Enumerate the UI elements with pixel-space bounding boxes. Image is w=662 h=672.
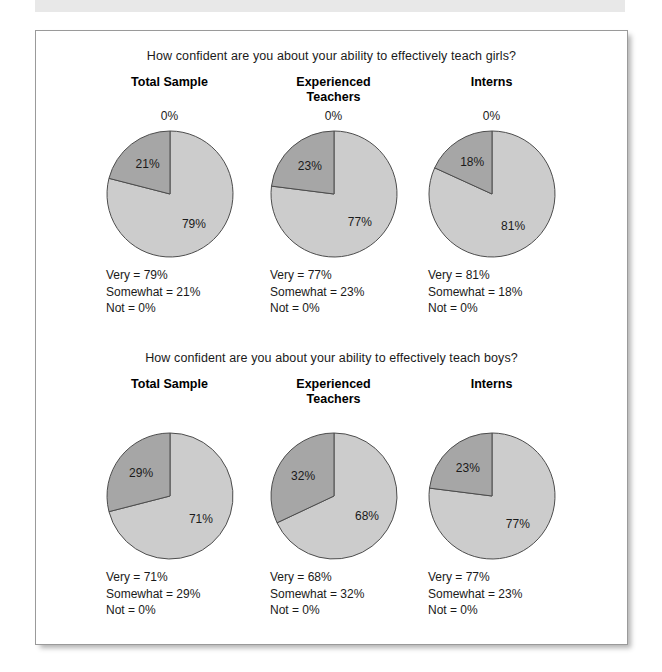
pie-slice-label-very: 77% [505,517,529,531]
column-header: Total Sample [82,377,257,409]
pie-slice-label-very: 77% [347,215,371,229]
pie-chart[interactable]: 71%29% [82,427,257,559]
pie-slice-label-somewhat: 23% [297,159,321,173]
legend-line: Somewhat = 21% [106,284,257,301]
figure-frame: How confident are you about your ability… [35,30,628,645]
chart-row: Total Sample 71%29% Very = 71%Somewhat =… [36,377,627,627]
legend-line: Very = 77% [428,569,579,586]
chart-row: Total Sample 0% 79%21% Very = 79%Somewha… [36,75,627,325]
chart-column-experienced-teachers: ExperiencedTeachers 68%32% Very = 68%Som… [246,377,421,619]
section-title: How confident are you about your ability… [36,351,627,365]
pie-svg: 81%18% [423,125,561,263]
pie-slice-label-very: 79% [181,217,205,231]
chart-column-total-sample: Total Sample 71%29% Very = 71%Somewhat =… [82,377,257,619]
pie-svg: 71%29% [101,427,239,565]
pie-svg: 77%23% [423,427,561,565]
section-title: How confident are you about your ability… [36,49,627,63]
pie-slice-label-very: 68% [354,509,378,523]
legend-line: Very = 81% [428,267,579,284]
pie-slice-label-somewhat: 32% [291,469,315,483]
pie-slice-label-somewhat: 23% [455,461,479,475]
pie-legend: Very = 77%Somewhat = 23%Not = 0% [246,267,421,317]
chart-column-experienced-teachers: ExperiencedTeachers 0% 77%23% Very = 77%… [246,75,421,317]
chart-column-interns: Interns 0% 81%18% Very = 81%Somewhat = 1… [404,75,579,317]
chart-column-interns: Interns 77%23% Very = 77%Somewhat = 23%N… [404,377,579,619]
legend-line: Not = 0% [270,300,421,317]
column-header: ExperiencedTeachers [246,377,421,409]
chart-column-total-sample: Total Sample 0% 79%21% Very = 79%Somewha… [82,75,257,317]
pie-chart[interactable]: 81%18% [404,125,579,257]
column-header: Interns [404,75,579,107]
pie-svg: 77%23% [265,125,403,263]
legend-line: Somewhat = 29% [106,586,257,603]
legend-line: Very = 71% [106,569,257,586]
legend-line: Not = 0% [270,602,421,619]
pie-svg: 68%32% [265,427,403,565]
pie-legend: Very = 71%Somewhat = 29%Not = 0% [82,569,257,619]
pie-legend: Very = 79%Somewhat = 21%Not = 0% [82,267,257,317]
zero-percent-label: 0% [82,107,257,125]
legend-line: Very = 79% [106,267,257,284]
pie-chart[interactable]: 77%23% [246,125,421,257]
legend-line: Very = 68% [270,569,421,586]
pie-slice-label-somewhat: 21% [135,157,159,171]
legend-line: Somewhat = 23% [428,586,579,603]
legend-line: Not = 0% [428,300,579,317]
section-teach-girls: How confident are you about your ability… [36,31,627,325]
zero-percent-label: 0% [404,107,579,125]
pie-svg: 79%21% [101,125,239,263]
pie-chart[interactable]: 79%21% [82,125,257,257]
pie-chart[interactable]: 68%32% [246,427,421,559]
legend-line: Not = 0% [428,602,579,619]
top-decorative-band [35,0,625,12]
zero-percent-label: 0% [246,107,421,125]
pie-legend: Very = 77%Somewhat = 23%Not = 0% [404,569,579,619]
legend-line: Not = 0% [106,602,257,619]
section-teach-boys: How confident are you about your ability… [36,333,627,627]
pie-slice-label-somewhat: 18% [460,155,484,169]
pie-slice-label-somewhat: 29% [129,466,153,480]
column-header: Interns [404,377,579,409]
legend-line: Very = 77% [270,267,421,284]
pie-legend: Very = 68%Somewhat = 32%Not = 0% [246,569,421,619]
pie-slice-label-very: 71% [188,512,212,526]
legend-line: Not = 0% [106,300,257,317]
pie-chart[interactable]: 77%23% [404,427,579,559]
legend-line: Somewhat = 18% [428,284,579,301]
pie-slice-label-very: 81% [501,219,525,233]
column-header: ExperiencedTeachers [246,75,421,107]
pie-legend: Very = 81%Somewhat = 18%Not = 0% [404,267,579,317]
column-header: Total Sample [82,75,257,107]
legend-line: Somewhat = 23% [270,284,421,301]
legend-line: Somewhat = 32% [270,586,421,603]
